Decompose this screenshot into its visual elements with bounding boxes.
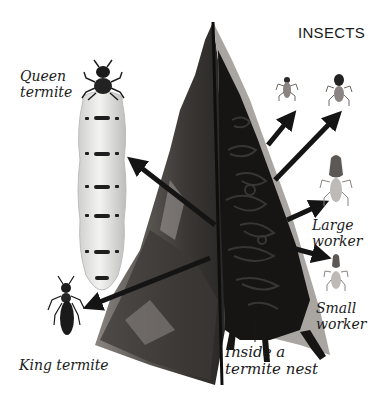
illustration-canvas — [0, 0, 378, 395]
queen-termite — [78, 60, 126, 290]
termite-mound — [95, 22, 330, 385]
large-worker-termite — [320, 155, 352, 206]
king-termite — [48, 276, 84, 335]
king-termite-label: King termite — [19, 357, 109, 373]
nest-label: Inside a termite nest — [225, 344, 318, 378]
arrow-to-soldier-small — [268, 118, 290, 145]
termite-illustration: INSECTS Queen termite King termite Large… — [0, 0, 378, 395]
small-worker-termite — [324, 254, 348, 291]
section-title: INSECTS — [298, 24, 365, 41]
large-worker-label: Large worker — [312, 217, 363, 249]
soldier-termite-large — [326, 74, 352, 106]
queen-termite-label: Queen termite — [20, 68, 72, 100]
small-worker-label: Small worker — [316, 300, 367, 332]
soldier-termite-small — [276, 77, 298, 101]
